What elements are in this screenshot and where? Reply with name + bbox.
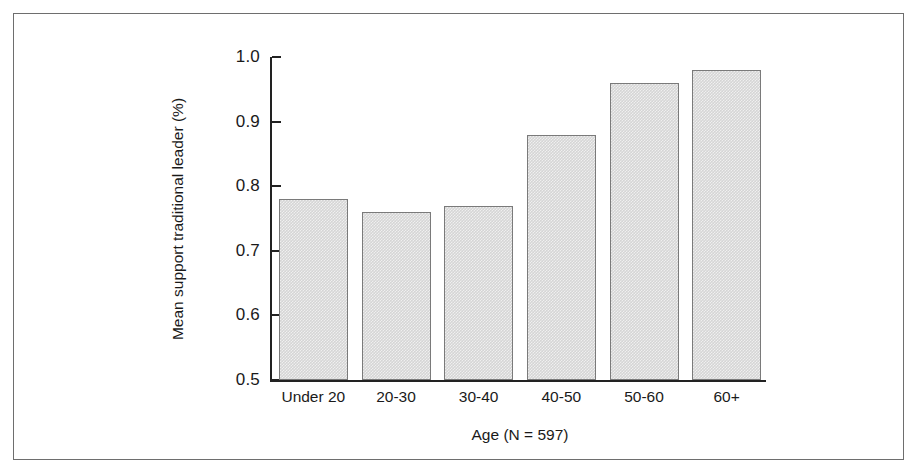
bar-series <box>272 44 768 380</box>
y-axis-tick-label: 0.8 <box>236 176 260 196</box>
y-axis-tick-label: 0.7 <box>236 241 260 261</box>
y-axis-tick-label: 0.9 <box>236 112 260 132</box>
bar[interactable] <box>362 212 431 380</box>
x-axis-title: Age (N = 597) <box>272 426 768 444</box>
bar[interactable] <box>610 83 679 380</box>
bar-slot <box>362 44 431 380</box>
bar-slot <box>444 44 513 380</box>
bar[interactable] <box>444 206 513 380</box>
x-axis-tick-label: 20-30 <box>355 388 438 406</box>
x-axis-tick-label: 60+ <box>685 388 768 406</box>
y-axis-title: Mean support traditional leader (%) <box>169 98 187 340</box>
y-axis-tick-labels: 1.00.90.80.70.60.5 <box>208 44 260 444</box>
plot-area: 1.00.90.80.70.60.5 Mean support traditio… <box>270 44 780 444</box>
x-axis-tick-label: 30-40 <box>437 388 520 406</box>
x-axis-tick-label: 50-60 <box>603 388 686 406</box>
bar-slot <box>610 44 679 380</box>
y-axis-tick-label: 0.5 <box>236 370 260 390</box>
x-axis-tick-label: 40-50 <box>520 388 603 406</box>
bar-slot <box>279 44 348 380</box>
x-axis-line <box>270 380 766 382</box>
bar[interactable] <box>527 135 596 380</box>
bar[interactable] <box>279 199 348 380</box>
figure-frame: 1.00.90.80.70.60.5 Mean support traditio… <box>13 13 904 460</box>
x-axis-tick-label: Under 20 <box>272 388 355 406</box>
bar-slot <box>527 44 596 380</box>
bar[interactable] <box>692 70 761 380</box>
y-axis-tick-label: 0.6 <box>236 305 260 325</box>
bar-slot <box>692 44 761 380</box>
x-axis-tick-labels: Under 2020-3030-4040-5050-6060+ <box>272 388 768 416</box>
y-axis-tick-label: 1.0 <box>236 47 260 67</box>
